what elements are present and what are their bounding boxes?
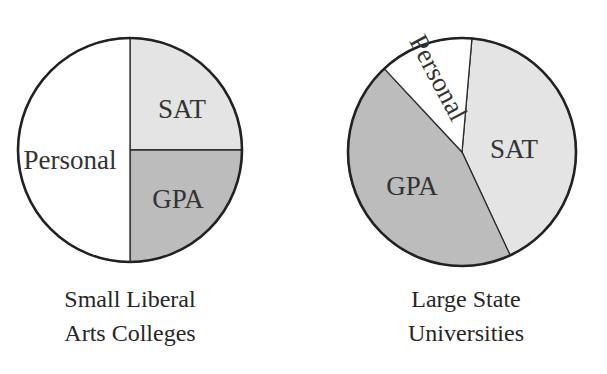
slice-label-sat: SAT xyxy=(490,134,539,164)
chart-title-line-2: Arts Colleges xyxy=(0,316,260,350)
chart-title-small-liberal-arts-colleges: Small Liberal Arts Colleges xyxy=(0,282,260,350)
pie-chart-large-state-universities: SATGPAPersonal xyxy=(348,30,576,266)
slice-label-sat: SAT xyxy=(158,94,207,124)
slice-label-personal: Personal xyxy=(24,145,117,175)
chart-title-line-2: Universities xyxy=(336,316,596,350)
chart-title-line-1: Large State xyxy=(336,282,596,316)
slice-label-gpa: GPA xyxy=(152,184,204,214)
pie-chart-small-liberal-arts-colleges: SATGPAPersonal xyxy=(18,38,242,262)
slice-label-gpa: GPA xyxy=(386,171,438,201)
chart-title-large-state-universities: Large State Universities xyxy=(336,282,596,350)
chart-title-line-1: Small Liberal xyxy=(0,282,260,316)
